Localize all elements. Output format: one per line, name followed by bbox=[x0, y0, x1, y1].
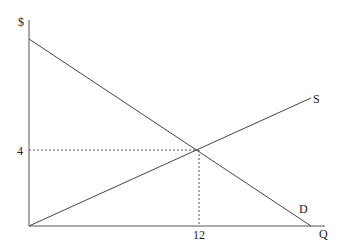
demand-label: D bbox=[299, 202, 308, 216]
price-tick-label: 4 bbox=[17, 144, 23, 158]
supply-label: S bbox=[313, 92, 320, 106]
y-axis-label: $ bbox=[18, 15, 24, 29]
supply-demand-diagram: $ Q S D 4 12 bbox=[0, 0, 347, 248]
demand-curve bbox=[29, 39, 311, 226]
supply-curve bbox=[29, 98, 311, 226]
quantity-tick-label: 12 bbox=[193, 228, 205, 242]
x-axis-label: Q bbox=[319, 227, 328, 241]
